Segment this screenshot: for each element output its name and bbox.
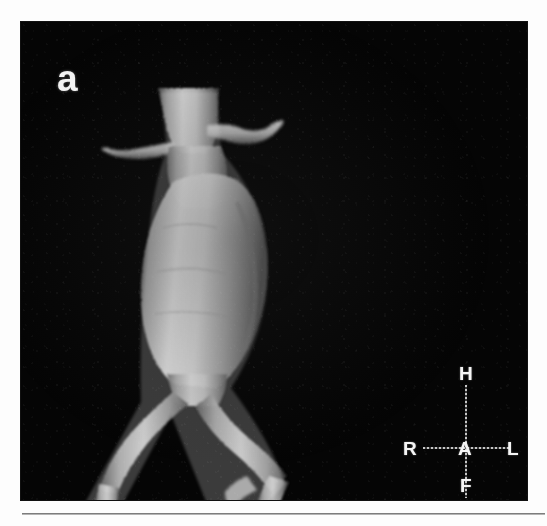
figure-separator-rule xyxy=(22,513,545,515)
volume-rendering-viewport[interactable]: a H F R L A xyxy=(21,22,527,500)
orientation-label-left: L xyxy=(507,439,519,458)
orientation-cross: H F R L A xyxy=(401,360,521,496)
orientation-label-head: H xyxy=(459,364,473,383)
orientation-label-feet: F xyxy=(460,476,472,495)
orientation-label-anterior: A xyxy=(458,439,472,458)
orientation-label-right: R xyxy=(403,439,417,458)
panel-label: a xyxy=(57,60,78,97)
figure-page: a H F R L A xyxy=(0,0,547,526)
